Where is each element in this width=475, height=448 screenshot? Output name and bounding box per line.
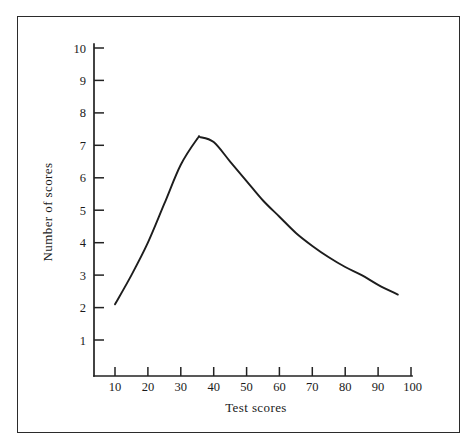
x-tick-label: 100 xyxy=(403,380,422,394)
y-tick-label: 4 xyxy=(80,236,87,250)
x-tick-label: 70 xyxy=(306,380,319,394)
x-axis-title: Test scores xyxy=(225,400,287,415)
y-axis-title: Number of scores xyxy=(40,163,55,262)
y-tick-label: 5 xyxy=(80,204,86,218)
x-axis-tick-labels: 10 20 30 40 50 60 70 80 90 100 xyxy=(109,380,422,394)
x-tick-label: 50 xyxy=(240,380,253,394)
x-tick-label: 10 xyxy=(109,380,122,394)
x-tick-label: 80 xyxy=(339,380,352,394)
figure-root: 10 9 8 7 6 5 4 3 2 1 10 20 xyxy=(0,0,475,448)
y-tick-label: 1 xyxy=(80,334,86,348)
y-tick-label: 8 xyxy=(80,106,86,120)
y-axis-ticks xyxy=(94,48,104,340)
y-tick-label: 6 xyxy=(80,171,86,185)
x-tick-label: 20 xyxy=(142,380,155,394)
x-tick-label: 40 xyxy=(207,380,220,394)
chart-plot-area: 10 9 8 7 6 5 4 3 2 1 10 20 xyxy=(0,0,475,448)
y-axis-tick-labels: 10 9 8 7 6 5 4 3 2 1 xyxy=(74,42,87,348)
distribution-curve xyxy=(115,136,398,304)
y-tick-label: 9 xyxy=(80,74,86,88)
x-tick-label: 30 xyxy=(175,380,188,394)
x-tick-label: 90 xyxy=(372,380,385,394)
x-axis-ticks xyxy=(115,367,411,376)
y-tick-label: 7 xyxy=(80,139,86,153)
y-tick-label: 2 xyxy=(80,301,86,315)
y-tick-label: 10 xyxy=(74,42,87,56)
x-tick-label: 60 xyxy=(273,380,286,394)
y-tick-label: 3 xyxy=(80,269,86,283)
